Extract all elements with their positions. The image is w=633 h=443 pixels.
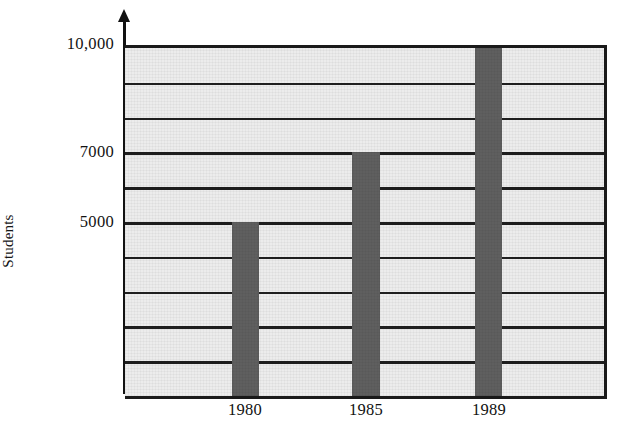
x-tick-label-1989: 1989 xyxy=(472,400,506,420)
y-tick-label-7000: 7000 xyxy=(28,144,114,161)
gridline-8000 xyxy=(125,118,604,121)
y-axis-title: Students xyxy=(0,196,17,286)
y-tick-label-10000: 10,000 xyxy=(28,36,114,53)
x-tick-label-1980: 1980 xyxy=(228,400,262,420)
bar-1989 xyxy=(475,48,502,396)
bar-chart: Students 10,000 7000 5000 1980 1985 1989 xyxy=(0,0,633,443)
y-axis-arrow-icon xyxy=(118,9,130,22)
y-axis-tick-labels: 10,000 7000 5000 xyxy=(28,0,114,443)
bar-1985 xyxy=(352,152,380,396)
x-tick-label-1985: 1985 xyxy=(349,400,383,420)
bar-1980 xyxy=(232,222,259,396)
gridline-9000 xyxy=(125,83,604,86)
plot-area xyxy=(125,45,607,399)
y-tick-label-5000: 5000 xyxy=(28,214,114,231)
